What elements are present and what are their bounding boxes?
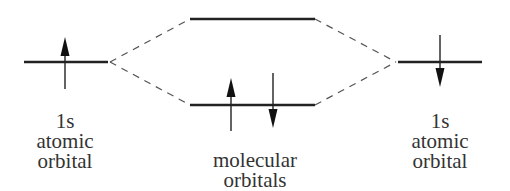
label-line: 1s [20, 111, 110, 131]
label-line: orbital [20, 151, 110, 171]
molecular-orbitals-label: molecular orbitals [195, 150, 315, 190]
label-line: 1s [395, 111, 485, 131]
label-line: orbitals [195, 170, 315, 190]
label-line: atomic [395, 131, 485, 151]
spin-down-arrow-icon [269, 73, 278, 128]
correlation-lines [110, 19, 396, 105]
left-atomic-orbital-label: 1s atomic orbital [20, 111, 110, 171]
right-atomic-orbital-label: 1s atomic orbital [395, 111, 485, 171]
mo-diagram: 1s atomic orbital molecular orbitals 1s … [0, 0, 510, 191]
label-line: atomic [20, 131, 110, 151]
label-line: molecular [195, 150, 315, 170]
label-line: orbital [395, 151, 485, 171]
